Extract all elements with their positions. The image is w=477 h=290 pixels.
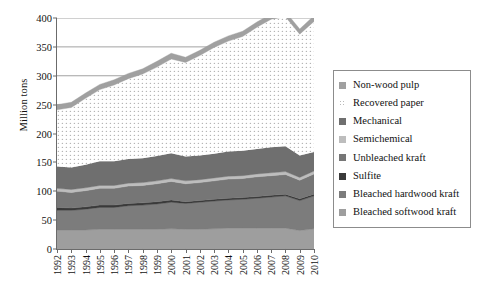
legend-item-label: Semichemical xyxy=(353,134,412,145)
x-axis-tick-label: 2010 xyxy=(309,255,320,275)
x-axis-tick-mark xyxy=(314,249,315,253)
y-axis-title: Million tons xyxy=(18,60,32,150)
x-axis-tick-mark xyxy=(214,249,215,253)
legend-swatch-icon xyxy=(339,191,346,198)
y-axis-tick-mark xyxy=(53,75,57,76)
legend-item-label: Unbleached kraft xyxy=(353,153,426,164)
legend-item-label: Non-wood pulp xyxy=(353,80,419,91)
x-axis-tick-mark xyxy=(186,249,187,253)
legend-item-label: Mechanical xyxy=(353,116,402,127)
legend-swatch-icon xyxy=(339,136,346,143)
y-axis-tick-mark xyxy=(53,162,57,163)
legend-item[interactable]: Semichemical xyxy=(339,131,466,149)
plot-area: 0501001502002503003504001992199319941995… xyxy=(56,18,314,250)
x-axis-tick-mark xyxy=(200,249,201,253)
x-axis-tick-mark xyxy=(171,249,172,253)
area-band xyxy=(57,228,314,249)
legend-item[interactable]: Bleached hardwood kraft xyxy=(339,185,466,203)
x-axis-tick-label: 2001 xyxy=(180,255,191,275)
x-axis-tick-label: 1994 xyxy=(80,255,91,275)
legend-item-label: Recovered paper xyxy=(353,98,424,109)
x-axis-tick-label: 1997 xyxy=(123,255,134,275)
legend-item[interactable]: Recovered paper xyxy=(339,94,466,112)
x-axis-tick-label: 1996 xyxy=(109,255,120,275)
legend-swatch-icon xyxy=(339,100,346,107)
y-axis-tick-mark xyxy=(53,220,57,221)
legend-item-label: Sulfite xyxy=(353,171,381,182)
legend-swatch-icon xyxy=(339,154,346,161)
x-axis-tick-label: 1993 xyxy=(66,255,77,275)
x-axis-tick-mark xyxy=(271,249,272,253)
legend-swatch-icon xyxy=(339,82,346,89)
plot-inner xyxy=(57,18,314,249)
legend-item[interactable]: Bleached softwood kraft xyxy=(339,203,466,221)
x-axis-tick-mark xyxy=(71,249,72,253)
x-axis-tick-label: 2000 xyxy=(166,255,177,275)
x-axis-tick-label: 1995 xyxy=(94,255,105,275)
x-axis-tick-label: 1999 xyxy=(151,255,162,275)
y-axis-tick-mark xyxy=(53,104,57,105)
legend-item[interactable]: Sulfite xyxy=(339,167,466,185)
x-axis-tick-label: 2005 xyxy=(237,255,248,275)
legend-swatch-icon xyxy=(339,209,346,216)
x-axis-tick-label: 1998 xyxy=(137,255,148,275)
x-axis-tick-label: 2007 xyxy=(266,255,277,275)
chart-legend: Non-wood pulpRecovered paperMechanicalSe… xyxy=(333,70,471,228)
y-axis-title-wrap: Million tons xyxy=(8,40,24,160)
y-axis-tick-mark xyxy=(53,18,57,19)
x-axis-tick-mark xyxy=(128,249,129,253)
x-axis-tick-mark xyxy=(57,249,58,253)
x-axis-tick-mark xyxy=(114,249,115,253)
x-axis-tick-mark xyxy=(157,249,158,253)
x-axis-tick-mark xyxy=(300,249,301,253)
legend-swatch-icon xyxy=(339,173,346,180)
x-axis-tick-label: 2006 xyxy=(251,255,262,275)
x-axis-tick-mark xyxy=(257,249,258,253)
x-axis-tick-mark xyxy=(86,249,87,253)
legend-item-label: Bleached softwood kraft xyxy=(353,207,456,218)
x-axis-tick-mark xyxy=(243,249,244,253)
x-axis-tick-label: 2008 xyxy=(280,255,291,275)
legend-item[interactable]: Unbleached kraft xyxy=(339,149,466,167)
legend-swatch-icon xyxy=(339,118,346,125)
x-axis-tick-label: 2003 xyxy=(209,255,220,275)
area-band xyxy=(57,18,314,168)
x-axis-tick-label: 2002 xyxy=(194,255,205,275)
stacked-area-chart: Million tons 050100150200250300350400199… xyxy=(0,0,477,290)
y-axis-tick-mark xyxy=(53,191,57,192)
y-axis-tick-mark xyxy=(53,133,57,134)
x-axis-tick-label: 1992 xyxy=(52,255,63,275)
x-axis-tick-label: 2004 xyxy=(223,255,234,275)
legend-item[interactable]: Non-wood pulp xyxy=(339,76,466,94)
x-axis-tick-label: 2009 xyxy=(294,255,305,275)
x-axis-tick-mark xyxy=(143,249,144,253)
x-axis-tick-mark xyxy=(100,249,101,253)
y-axis-tick-mark xyxy=(53,46,57,47)
x-axis-tick-mark xyxy=(228,249,229,253)
legend-item[interactable]: Mechanical xyxy=(339,112,466,130)
x-axis-tick-mark xyxy=(285,249,286,253)
legend-item-label: Bleached hardwood kraft xyxy=(353,189,459,200)
